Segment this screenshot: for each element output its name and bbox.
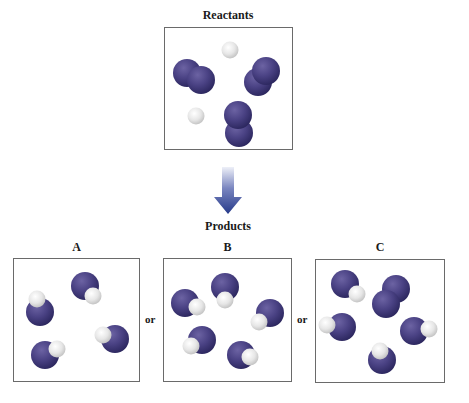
option-b-label: B	[163, 240, 292, 255]
products-title: Products	[178, 219, 278, 234]
hydrogen-atom	[222, 42, 239, 59]
nitrogen-atom	[187, 66, 215, 94]
hydrogen-atom	[29, 291, 46, 308]
or-connector-1: or	[145, 313, 155, 325]
nitrogen-atom	[224, 101, 252, 129]
reactants-title: Reactants	[164, 8, 292, 23]
hydrogen-atom	[251, 314, 268, 331]
hydrogen-atom	[242, 349, 259, 366]
option-a-label: A	[13, 240, 140, 255]
hydrogen-atom	[189, 299, 206, 316]
hydrogen-atom	[95, 327, 112, 344]
hydrogen-atom	[421, 321, 438, 338]
hydrogen-atom	[372, 343, 389, 360]
hydrogen-atom	[349, 286, 366, 303]
down-arrow-icon	[214, 167, 242, 214]
hydrogen-atom	[217, 292, 234, 309]
hydrogen-atom	[85, 288, 102, 305]
or-connector-2: or	[297, 313, 307, 325]
option-c-label: C	[315, 240, 445, 255]
hydrogen-atom	[319, 317, 336, 334]
hydrogen-atom	[49, 341, 66, 358]
hydrogen-atom	[188, 108, 205, 125]
nitrogen-atom	[252, 57, 280, 85]
hydrogen-atom	[183, 338, 200, 355]
nitrogen-atom	[372, 290, 400, 318]
